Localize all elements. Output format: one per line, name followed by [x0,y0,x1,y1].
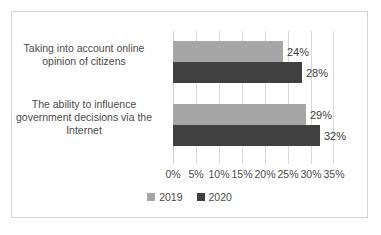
x-tick-35: 35% [323,167,344,181]
chart-legend: 2019 2020 [12,192,367,203]
legend-swatch-2020-icon [197,193,205,201]
bar-value-label-2020-0: 28% [306,67,328,78]
x-tick-30: 30% [300,167,321,181]
bar-value-label-2020-1: 32% [324,130,346,141]
x-tick-20: 20% [254,167,275,181]
category-label-0-line-1: opinion of citizens [4,55,164,68]
chart-container: Taking into account online opinion of ci… [11,11,368,218]
bar-value-label-2019-0: 24% [287,46,309,57]
category-label-1-line-1: government decisions via the [4,111,164,124]
x-axis: 0% 5% 10% 15% 20% 25% 30% 35% [173,167,334,183]
category-label-1-line-0: The ability to influence [4,98,164,111]
x-tick-0: 0% [165,167,180,181]
category-label-1: The ability to influence government deci… [4,98,164,137]
category-label-1-line-2: Internet [4,124,164,137]
category-label-0: Taking into account online opinion of ci… [4,42,164,68]
x-tick-15: 15% [231,167,252,181]
category-label-0-line-0: Taking into account online [4,42,164,55]
bar-2020-category-0[interactable]: 28% [173,62,302,83]
x-tick-25: 25% [277,167,298,181]
plot-area: 24% 28% 29% 32% [173,31,334,164]
x-tick-10: 10% [208,167,229,181]
legend-label-2019: 2019 [159,192,182,203]
legend-label-2020: 2020 [209,192,232,203]
bar-value-label-2019-1: 29% [310,109,332,120]
bar-2020-category-1[interactable]: 32% [173,125,320,146]
x-tick-5: 5% [188,167,203,181]
bar-2019-category-0[interactable]: 24% [173,41,283,62]
legend-item-2020[interactable]: 2020 [197,192,232,203]
bar-2019-category-1[interactable]: 29% [173,104,306,125]
legend-item-2019[interactable]: 2019 [147,192,182,203]
legend-swatch-2019-icon [147,193,155,201]
gridline-35 [333,31,334,164]
